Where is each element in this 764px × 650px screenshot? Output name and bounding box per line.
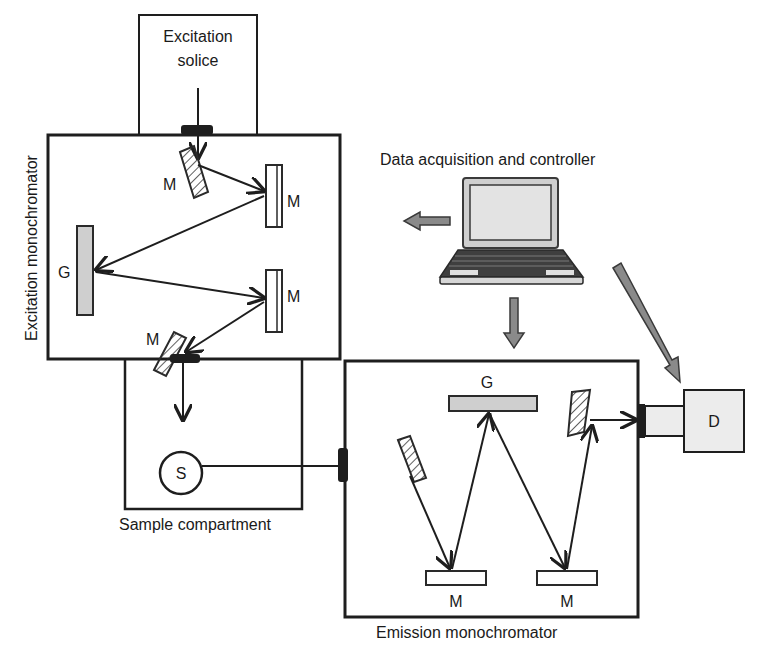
data-acquisition-label: Data acquisition and controller <box>380 151 596 168</box>
excitation-source-label-1: Excitation <box>163 28 232 45</box>
ex-mirror-3-label: M <box>287 288 300 305</box>
ex-mirror-2 <box>266 165 282 227</box>
em-mirror-2-label: M <box>560 593 573 610</box>
detector: D <box>637 390 744 452</box>
ex-mirror-3 <box>266 270 282 332</box>
excitation-monochromator: Excitation monochromator M M G M M <box>23 88 340 420</box>
sample-compartment-label: Sample compartment <box>119 516 272 533</box>
em-mirror-1 <box>426 571 486 585</box>
ex-mirror-2-label: M <box>287 193 300 210</box>
emission-monochromator: Emission monochromator G M M <box>338 361 638 641</box>
em-grating <box>449 396 537 411</box>
spectrofluorometer-diagram: Excitation solice Excitation monochromat… <box>0 0 764 650</box>
em-grating-label: G <box>481 374 493 391</box>
emission-exit-slit <box>637 404 645 438</box>
emission-monochromator-label: Emission monochromator <box>376 624 558 641</box>
control-arrow-to-emission <box>504 298 524 348</box>
em-mirror-2 <box>537 571 597 585</box>
computer-controller: Data acquisition and controller <box>380 151 680 382</box>
ex-mirror-4-label: M <box>146 331 159 348</box>
ex-grating <box>77 226 93 315</box>
excitation-source-label-2: solice <box>178 52 219 69</box>
sample-label: S <box>176 465 187 482</box>
ex-mirror-1-label: M <box>163 176 176 193</box>
laptop-icon <box>440 178 583 284</box>
control-arrow-to-excitation <box>404 212 450 230</box>
excitation-monochromator-label: Excitation monochromator <box>23 154 40 341</box>
ex-grating-label: G <box>58 264 70 281</box>
detector-label: D <box>708 413 720 430</box>
em-mirror-1-label: M <box>449 593 462 610</box>
emission-entrance-slit <box>338 448 348 482</box>
exit-slit <box>170 354 200 363</box>
